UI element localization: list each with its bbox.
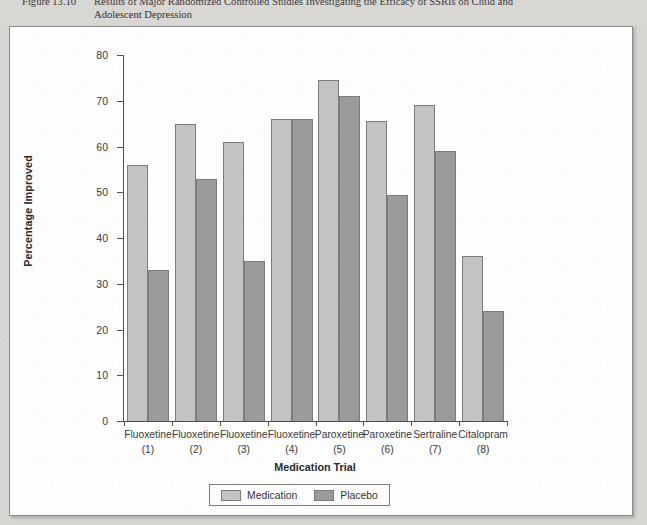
x-tick-mark bbox=[172, 421, 173, 426]
chart-legend: Medication Placebo bbox=[209, 484, 390, 506]
bar-medication bbox=[366, 121, 387, 421]
y-tick-row: 0 bbox=[10, 421, 117, 422]
bar-placebo bbox=[435, 151, 456, 421]
y-tick-mark bbox=[117, 147, 123, 148]
figure-page: Figure 13.10Results of Major Randomized … bbox=[0, 0, 647, 525]
y-tick-mark bbox=[117, 192, 123, 193]
x-category-name: Citalopram bbox=[458, 429, 508, 440]
y-tick-row: 70 bbox=[10, 101, 117, 102]
bar-series-area bbox=[124, 55, 507, 421]
y-tick-label: 0 bbox=[10, 415, 117, 427]
bar-placebo bbox=[292, 119, 313, 421]
bar-medication bbox=[414, 105, 435, 421]
y-tick-mark bbox=[117, 330, 123, 331]
legend-item-placebo: Placebo bbox=[314, 490, 378, 501]
y-tick-label: 80 bbox=[10, 49, 117, 61]
y-tick-mark bbox=[117, 421, 123, 422]
legend-swatch-placebo-icon bbox=[314, 490, 334, 501]
y-tick-mark bbox=[117, 101, 123, 102]
bar-medication bbox=[271, 119, 292, 421]
bar-group bbox=[127, 55, 169, 421]
figure-caption: Figure 13.10Results of Major Randomized … bbox=[22, 0, 634, 9]
legend-label-placebo: Placebo bbox=[340, 490, 378, 501]
legend-label-medication: Medication bbox=[247, 490, 297, 501]
bar-placebo bbox=[387, 195, 408, 421]
x-tick-mark bbox=[316, 421, 317, 426]
bar-placebo bbox=[196, 179, 217, 421]
x-tick-mark bbox=[459, 421, 460, 426]
legend-item-medication: Medication bbox=[221, 490, 297, 501]
x-category-label: Citalopram(8) bbox=[441, 428, 525, 457]
bar-group bbox=[271, 55, 313, 421]
y-axis-title: Percentage Improved bbox=[22, 131, 34, 291]
y-tick-row: 80 bbox=[10, 55, 117, 56]
figure-number: Figure 13.10 bbox=[22, 0, 94, 9]
y-tick-mark bbox=[117, 284, 123, 285]
x-tick-mark bbox=[411, 421, 412, 426]
bar-group bbox=[318, 55, 360, 421]
y-tick-row: 10 bbox=[10, 375, 117, 376]
x-tick-mark bbox=[268, 421, 269, 426]
bar-medication bbox=[462, 256, 483, 421]
y-tick-mark bbox=[117, 55, 123, 56]
y-tick-label: 10 bbox=[10, 369, 117, 381]
y-tick-row: 20 bbox=[10, 330, 117, 331]
bar-placebo bbox=[148, 270, 169, 421]
x-axis-title: Medication Trial bbox=[123, 461, 507, 473]
bar-medication bbox=[127, 165, 148, 421]
x-tick-mark bbox=[124, 421, 125, 426]
figure-caption-band: Figure 13.10Results of Major Randomized … bbox=[0, 0, 647, 25]
bar-group bbox=[175, 55, 217, 421]
bar-group bbox=[223, 55, 265, 421]
figure-caption-line-2: Adolescent Depression bbox=[94, 9, 192, 20]
bar-group bbox=[366, 55, 408, 421]
chart-panel: 01020304050607080 Percentage Improved Fl… bbox=[9, 26, 633, 516]
figure-caption-line-1: Results of Major Randomized Controlled S… bbox=[94, 0, 513, 7]
bar-medication bbox=[318, 80, 339, 421]
y-tick-label: 70 bbox=[10, 95, 117, 107]
bar-medication bbox=[223, 142, 244, 421]
bar-chart: 01020304050607080 Percentage Improved Fl… bbox=[10, 27, 634, 517]
legend-swatch-medication-icon bbox=[221, 490, 241, 501]
bar-group bbox=[462, 55, 504, 421]
bar-group bbox=[414, 55, 456, 421]
x-tick-mark bbox=[363, 421, 364, 426]
bar-placebo bbox=[339, 96, 360, 421]
x-tick-mark bbox=[220, 421, 221, 426]
x-tick-mark bbox=[507, 421, 508, 426]
bar-medication bbox=[175, 124, 196, 421]
x-category-number: (8) bbox=[441, 443, 525, 458]
bar-placebo bbox=[483, 311, 504, 421]
y-tick-mark bbox=[117, 375, 123, 376]
y-tick-label: 20 bbox=[10, 324, 117, 336]
y-tick-mark bbox=[117, 238, 123, 239]
bar-placebo bbox=[244, 261, 265, 421]
